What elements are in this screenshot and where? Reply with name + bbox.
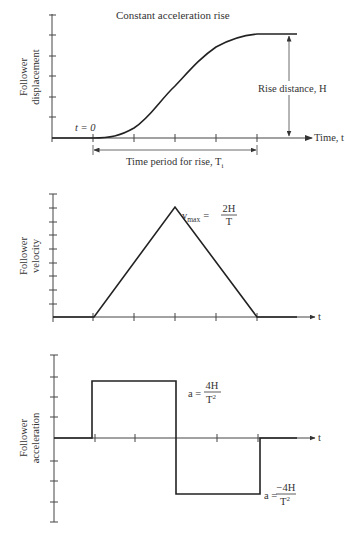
svg-text:Follower: Follower (18, 58, 29, 96)
svg-text:T2: T2 (280, 495, 290, 507)
negative-accel-label: a = −4H T2 (264, 482, 296, 507)
acceleration-curve (54, 381, 297, 494)
velocity-plot: t vmax= 2H T Follower velocity (18, 194, 321, 322)
svg-text:a =: a = (188, 388, 201, 399)
svg-text:Follower: Follower (18, 419, 29, 457)
time-axis-label: Time, t (314, 132, 344, 143)
acceleration-y-label: Follower acceleration (18, 412, 41, 463)
acceleration-x-label: t (318, 432, 321, 443)
svg-text:T2: T2 (206, 393, 216, 405)
cam-motion-diagram: Constant acceleration rise Rise distance… (0, 0, 345, 535)
displacement-y-label: Follower displacement (18, 49, 41, 104)
acceleration-plot: t a = 4H T2 a = −4H T2 Follower accelera… (18, 355, 321, 522)
t0-label: t = 0 (75, 122, 96, 133)
svg-text:velocity: velocity (30, 238, 41, 273)
velocity-curve (53, 207, 297, 317)
svg-text:4H: 4H (206, 380, 219, 391)
displacement-plot: Constant acceleration rise Rise distance… (18, 9, 344, 170)
svg-text:Follower: Follower (18, 237, 29, 275)
rise-period-label: Time period for rise, Ti (126, 156, 223, 170)
svg-text:acceleration: acceleration (30, 412, 41, 463)
svg-text:−4H: −4H (277, 482, 296, 493)
velocity-y-label: Follower velocity (18, 237, 41, 275)
svg-text:a =: a = (264, 490, 277, 501)
velocity-x-label: t (318, 311, 321, 322)
svg-text:2H: 2H (223, 203, 236, 214)
positive-accel-label: a = 4H T2 (188, 380, 221, 405)
svg-text:displacement: displacement (30, 49, 41, 104)
svg-text:T: T (226, 216, 233, 227)
rise-distance-label: Rise distance, H (258, 83, 327, 94)
displacement-title: Constant acceleration rise (116, 9, 230, 21)
vmax-label: vmax= 2H T (182, 203, 237, 227)
